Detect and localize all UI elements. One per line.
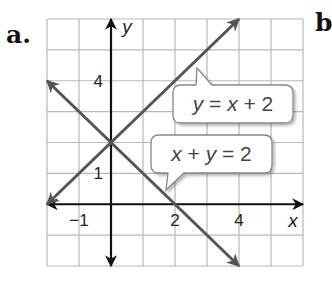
y-tick-label: 4 (94, 72, 103, 91)
x-axis-label: x (287, 210, 299, 231)
x-tick-label: 2 (170, 211, 179, 230)
y-axis-label: y (120, 16, 133, 37)
callout-equation: x + y = 2 (170, 142, 252, 165)
callout-equation: y = x + 2 (191, 92, 274, 115)
y-tick-label: 1 (94, 164, 103, 183)
x-tick-label: −1 (69, 211, 88, 230)
x-tick-label: 4 (234, 211, 243, 230)
